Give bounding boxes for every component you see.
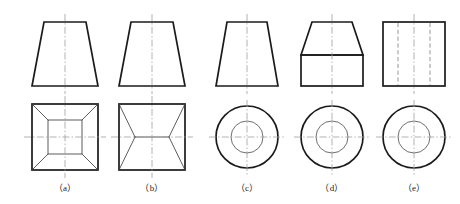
caption-c: （c） — [217, 182, 277, 194]
caption-b: （b） — [122, 182, 182, 194]
caption-d: （d） — [302, 182, 362, 194]
drawing-sheet: .outline { fill: none; stroke: #1b1b1b; … — [0, 0, 460, 204]
caption-e: （e） — [384, 182, 444, 194]
figure-a — [24, 14, 106, 178]
figure-e — [376, 14, 452, 175]
figure-c — [209, 14, 285, 175]
figure-d — [294, 14, 370, 175]
orthographic-projection-drawing: .outline { fill: none; stroke: #1b1b1b; … — [0, 0, 460, 204]
caption-row: （a） （b） （c） （d） （e） — [0, 182, 460, 200]
figure-b — [111, 14, 193, 178]
caption-a: （a） — [35, 182, 95, 194]
